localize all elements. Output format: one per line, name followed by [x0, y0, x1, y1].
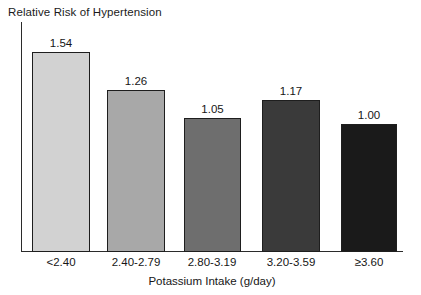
bar-value-label: 1.00 [358, 109, 380, 121]
x-axis-category-label: <2.40 [46, 256, 75, 269]
bar-rect[interactable] [184, 118, 241, 252]
x-axis-category-label: ≥3.60 [355, 256, 384, 269]
bar-rect[interactable] [262, 100, 320, 252]
bar-rect[interactable] [341, 124, 397, 252]
bar-group: 1.54 [32, 52, 90, 252]
bar-chart: Relative Risk of Hypertension 1.54 1.26 … [0, 0, 421, 295]
bar-value-label: 1.26 [125, 75, 147, 87]
x-axis-title: Potassium Intake (g/day) [148, 275, 275, 288]
bar-value-label: 1.17 [280, 85, 302, 97]
x-axis-category-label: 2.40-2.79 [112, 256, 161, 269]
bar-value-label: 1.54 [50, 37, 72, 49]
x-axis-category-label: 3.20-3.59 [267, 256, 316, 269]
bar-value-label: 1.05 [201, 103, 223, 115]
bar-group: 1.00 [341, 124, 397, 252]
bar-group: 1.26 [107, 90, 165, 252]
bar-rect[interactable] [32, 52, 90, 252]
bar-rect[interactable] [107, 90, 165, 252]
plot-area: 1.54 1.26 1.05 1.17 1.00 [0, 0, 421, 252]
x-axis-category-label: 2.80-3.19 [188, 256, 237, 269]
bar-group: 1.17 [262, 100, 320, 252]
bar-group: 1.05 [184, 118, 241, 252]
